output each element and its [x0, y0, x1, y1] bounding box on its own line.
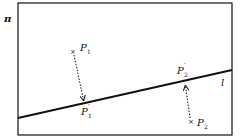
line-label: l	[221, 77, 224, 88]
line-l	[18, 70, 232, 118]
projection-arrow-p1	[74, 55, 84, 100]
plane-rectangle	[18, 3, 232, 135]
point-p2-label: P 2	[196, 117, 208, 130]
projection-p2-label: P ′ 2	[176, 62, 188, 78]
svg-text:1: 1	[87, 48, 91, 55]
projection-diagram: π l × P 1 P ′ 1 P ′ 2 × P 2	[0, 0, 240, 137]
svg-text:P: P	[176, 65, 184, 76]
svg-text:1: 1	[88, 112, 92, 119]
plane-label: π	[3, 13, 12, 24]
point-p1-marker: ×	[70, 48, 76, 56]
svg-text:′: ′	[184, 62, 186, 70]
svg-text:P: P	[79, 42, 87, 53]
svg-text:2: 2	[204, 123, 208, 130]
projection-arrow-p2	[186, 86, 191, 118]
svg-text:P: P	[80, 106, 88, 117]
point-p2-marker: ×	[188, 118, 194, 126]
point-p1-label: P 1	[79, 42, 91, 55]
projection-p1-label: P ′ 1	[80, 103, 92, 119]
svg-text:P: P	[196, 117, 204, 128]
svg-text:2: 2	[184, 71, 188, 78]
svg-text:′: ′	[88, 103, 90, 111]
